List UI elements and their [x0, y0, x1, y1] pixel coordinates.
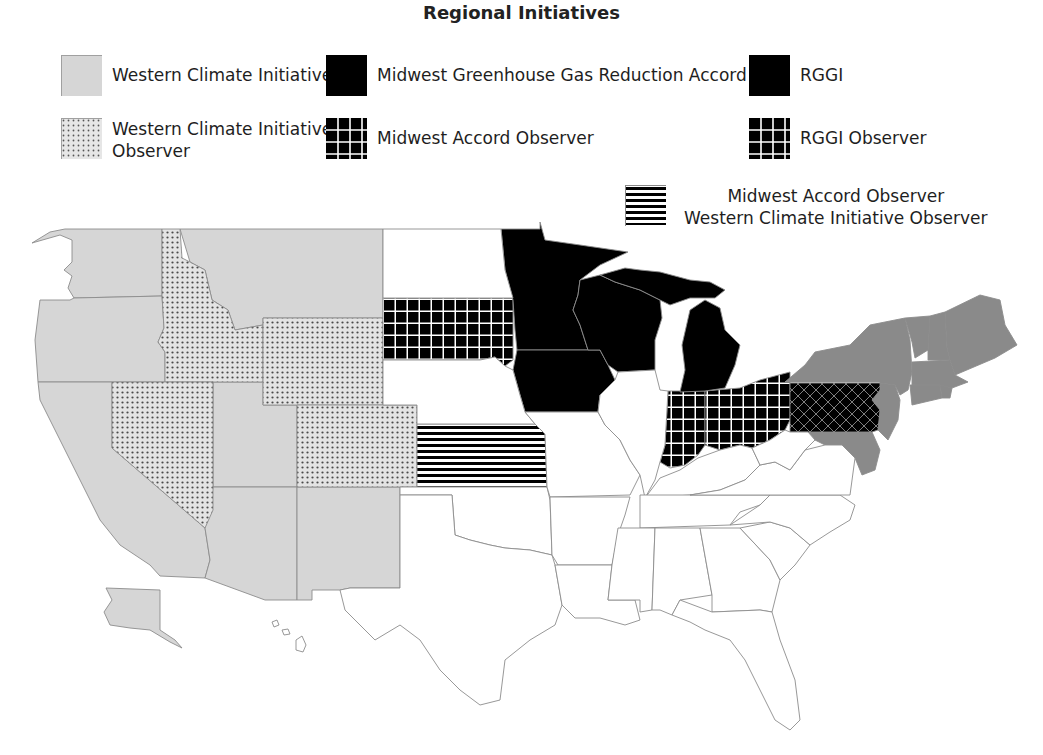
state-kansas: [417, 424, 547, 487]
state-new-mexico: [297, 487, 400, 600]
state-wyoming: [263, 318, 383, 405]
state-connecticut: [910, 385, 942, 405]
state-arizona: [205, 487, 297, 600]
state-michigan-lower: [680, 300, 740, 392]
state-maine: [945, 295, 1017, 375]
state-pennsylvania: [790, 383, 880, 432]
state-north-dakota: [383, 229, 513, 298]
us-map: [0, 0, 1043, 755]
state-florida: [672, 600, 800, 730]
state-south-dakota: [383, 298, 513, 366]
state-washington: [32, 229, 162, 298]
state-alaska: [104, 588, 182, 648]
state-hawaii: [272, 620, 306, 652]
state-oregon: [35, 296, 165, 382]
state-colorado: [297, 405, 417, 487]
